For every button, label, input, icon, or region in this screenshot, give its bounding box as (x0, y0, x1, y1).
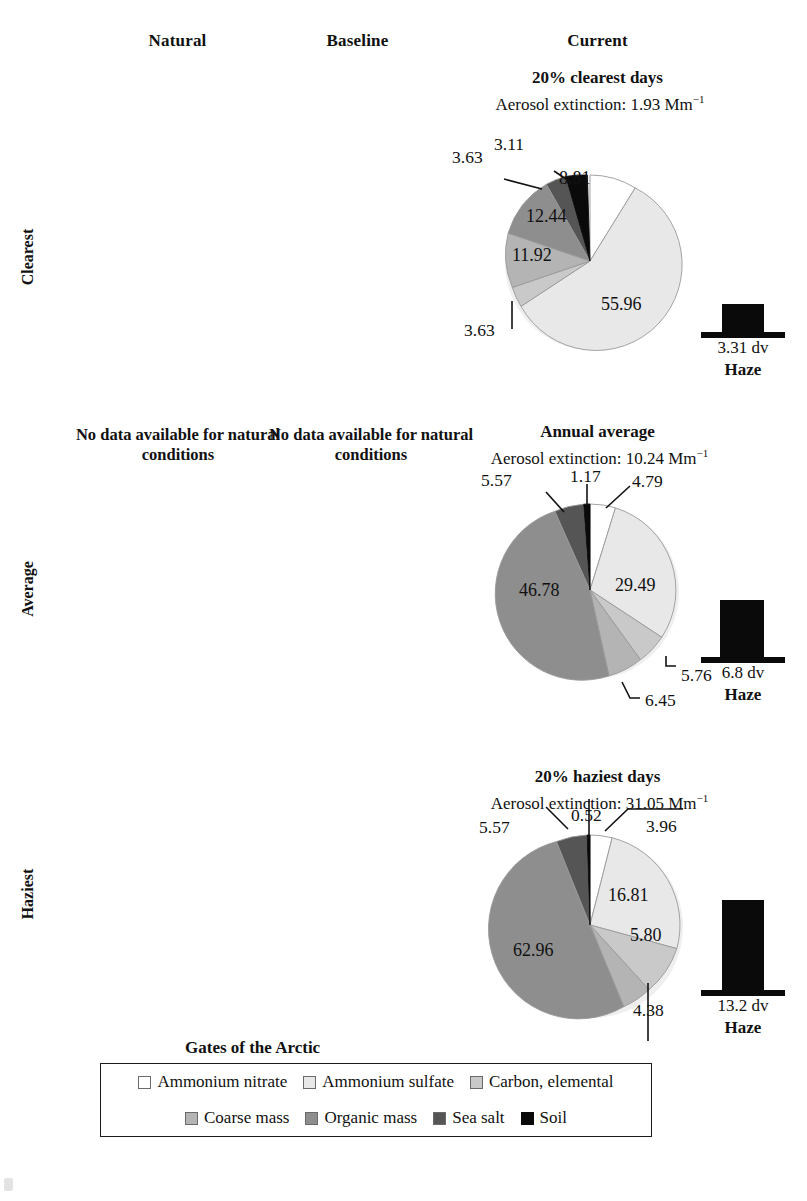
leader-line-nitrate (606, 486, 630, 508)
value-label-soil-clearest: 3.11 (494, 134, 524, 155)
haze-value-clearest: 3.31 dv (700, 338, 786, 358)
value-label-soil-haziest: 0.52 (571, 805, 602, 826)
legend: Ammonium nitrate Ammonium sulfate Carbon… (100, 1063, 652, 1137)
value-label-organic-haziest: 62.96 (513, 940, 554, 961)
haze-indicator-clearest: 3.31 dv Haze (700, 290, 800, 380)
leader-line-carbon (666, 656, 676, 666)
value-label-sulfate-haziest: 16.81 (608, 885, 649, 906)
leader-line-sea-salt (546, 492, 564, 512)
legend-label-ammonium-nitrate: Ammonium nitrate (157, 1072, 287, 1092)
legend-label-carbon-elemental: Carbon, elemental (489, 1072, 614, 1092)
panel-subtitle-clearest: Aerosol extinction: 1.93 Mm−1 (440, 93, 760, 115)
haze-caption-clearest: Haze (700, 360, 786, 380)
legend-item-sea-salt[interactable]: Sea salt (433, 1108, 504, 1128)
haze-bar-average (720, 600, 764, 657)
value-label-organic-clearest: 12.44 (526, 206, 567, 227)
panel-subtitle-clearest-text: Aerosol extinction: 1.93 Mm (495, 95, 692, 114)
value-label-sulfate-clearest: 55.96 (601, 294, 642, 315)
panel-title-haziest: 20% haziest days (455, 767, 740, 787)
value-label-coarse-haziest: 4.38 (633, 1000, 664, 1021)
row-label-average: Average (19, 539, 37, 639)
legend-swatch-icon-organic-mass (305, 1112, 318, 1125)
value-label-nitrate-clearest: 8.81 (559, 168, 591, 189)
leader-line-sea-salt (504, 179, 542, 189)
value-label-soil-average: 1.17 (570, 466, 601, 487)
value-label-carbon-clearest: 3.63 (464, 320, 495, 341)
value-label-coarse-clearest: 11.92 (512, 245, 552, 266)
figure-canvas: Natural Baseline Current Clearest Averag… (0, 0, 807, 1201)
extinction-exponent-haziest: −1 (697, 792, 709, 804)
haze-caption-haziest: Haze (700, 1018, 786, 1038)
legend-swatch-icon-soil (521, 1112, 534, 1125)
panel-title-clearest: 20% clearest days (455, 68, 740, 88)
legend-item-carbon-elemental[interactable]: Carbon, elemental (470, 1072, 614, 1092)
legend-label-ammonium-sulfate: Ammonium sulfate (322, 1072, 454, 1092)
extinction-exponent: −1 (693, 93, 705, 105)
pie-chart-haziest (488, 823, 694, 1029)
panel-title-average: Annual average (455, 422, 740, 442)
legend-item-organic-mass[interactable]: Organic mass (305, 1108, 417, 1128)
haze-caption-average: Haze (700, 685, 786, 705)
row-label-clearest: Clearest (19, 207, 37, 307)
column-header-current: Current (505, 31, 690, 51)
value-label-seasalt-clearest: 3.63 (452, 147, 483, 168)
legend-swatch-icon-carbon-elemental (470, 1076, 483, 1089)
value-label-carbon-haziest: 5.80 (630, 925, 662, 946)
haze-value-haziest: 13.2 dv (700, 996, 786, 1016)
legend-item-coarse-mass[interactable]: Coarse mass (185, 1108, 289, 1128)
legend-label-organic-mass: Organic mass (324, 1108, 417, 1128)
legend-label-sea-salt: Sea salt (452, 1108, 504, 1128)
leader-line-coarse (622, 682, 640, 698)
legend-row-top: Ammonium nitrate Ammonium sulfate Carbon… (101, 1064, 651, 1100)
haze-indicator-haziest: 13.2 dv Haze (700, 880, 800, 1030)
legend-item-soil[interactable]: Soil (521, 1108, 567, 1128)
haze-indicator-average: 6.8 dv Haze (700, 570, 800, 690)
legend-label-soil: Soil (540, 1108, 567, 1128)
legend-label-coarse-mass: Coarse mass (204, 1108, 289, 1128)
page-edge-artifact (4, 1178, 13, 1191)
legend-swatch-icon-coarse-mass (185, 1112, 198, 1125)
value-label-nitrate-haziest: 3.96 (646, 816, 677, 837)
park-title: Gates of the Arctic (185, 1038, 320, 1058)
value-label-seasalt-haziest: 5.57 (479, 817, 510, 838)
column-header-natural: Natural (85, 31, 270, 51)
legend-item-ammonium-sulfate[interactable]: Ammonium sulfate (303, 1072, 454, 1092)
legend-swatch-icon-ammonium-nitrate (138, 1076, 151, 1089)
value-label-organic-average: 46.78 (519, 580, 560, 601)
value-label-seasalt-average: 5.57 (481, 470, 512, 491)
row-label-haziest: Haziest (19, 844, 37, 944)
value-label-coarse-average: 6.45 (645, 690, 676, 711)
value-label-nitrate-average: 4.79 (632, 471, 663, 492)
extinction-exponent-average: −1 (697, 447, 709, 459)
haze-bar-clearest (722, 304, 764, 332)
panel-subtitle-average-text: Aerosol extinction: 10.24 Mm (491, 449, 697, 468)
legend-item-ammonium-nitrate[interactable]: Ammonium nitrate (138, 1072, 287, 1092)
legend-swatch-icon-ammonium-sulfate (303, 1076, 316, 1089)
haze-value-average: 6.8 dv (700, 663, 786, 683)
legend-row-bottom: Coarse mass Organic mass Sea salt Soil (101, 1100, 651, 1136)
legend-swatch-icon-sea-salt (433, 1112, 446, 1125)
haze-bar-haziest (722, 900, 764, 990)
column-header-baseline: Baseline (265, 31, 450, 51)
value-label-sulfate-average: 29.49 (615, 575, 656, 596)
